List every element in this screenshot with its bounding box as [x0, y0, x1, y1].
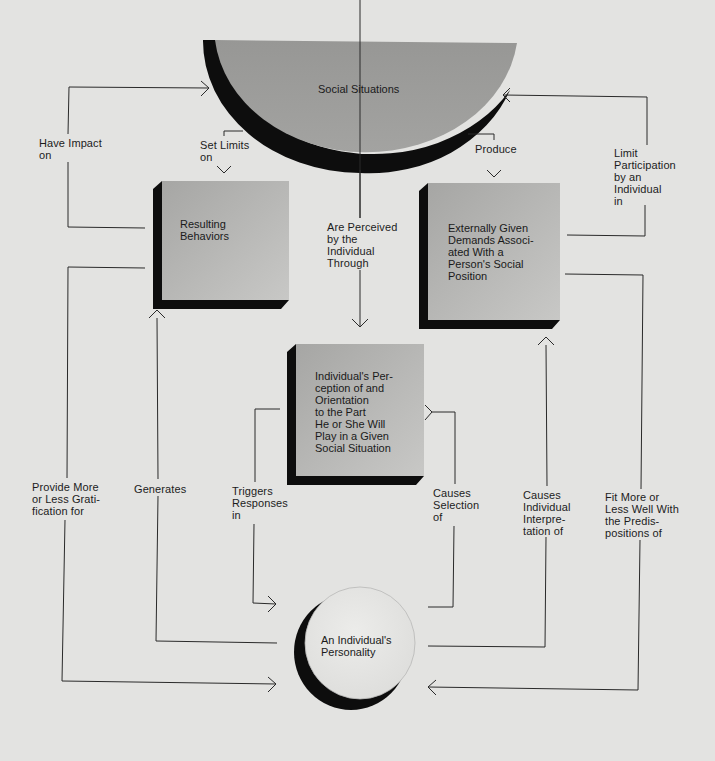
edge-label-are-perceived: Are Perceived by the Individual Through — [327, 221, 397, 269]
edge-label-limit-participation: Limit Participation by an Individual in — [614, 147, 676, 207]
node-label-personality: An Individual's Personality — [321, 634, 392, 658]
edge-produce — [468, 134, 501, 177]
node-label-social-situations: Social Situations — [318, 83, 399, 95]
edge-label-have-impact-on: Have Impact on — [39, 137, 102, 161]
edge-label-triggers-responses: Triggers Responses in — [232, 485, 288, 521]
node-resulting-behaviors — [153, 181, 289, 309]
edge-generates — [149, 310, 277, 643]
edge-label-generates: Generates — [134, 483, 186, 495]
node-label-external-demands: Externally Given Demands Associ- ated Wi… — [448, 222, 534, 282]
edge-label-causes-selection: Causes Selection of — [433, 487, 479, 523]
edge-fit-predispositions — [428, 274, 643, 695]
edge-label-produce: Produce — [475, 143, 517, 155]
node-label-resulting-behaviors: Resulting Behaviors — [180, 218, 229, 242]
edge-provide-gratification — [62, 267, 276, 692]
edge-label-set-limits-on: Set Limits on — [200, 139, 249, 163]
edge-label-causes-interpretation: Causes Individual Interpre- tation of — [523, 489, 570, 537]
edge-label-provide-gratification: Provide More or Less Grati- fication for — [32, 481, 100, 517]
node-label-perception: Individual's Per- ception of and Orienta… — [315, 370, 393, 454]
edge-label-fit-predispositions: Fit More or Less Well With the Predis- p… — [605, 491, 679, 539]
